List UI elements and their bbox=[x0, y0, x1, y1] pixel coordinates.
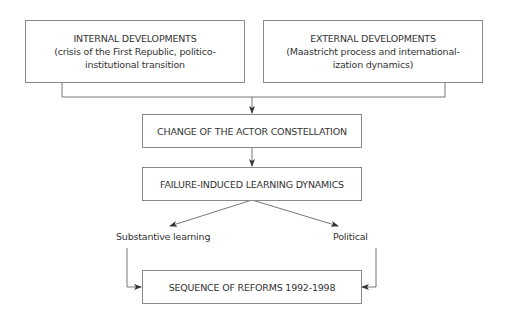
internal-title: INTERNAL DEVELOPMENTS bbox=[54, 32, 216, 45]
external-developments-box: EXTERNAL DEVELOPMENTS (Maastricht proces… bbox=[263, 20, 483, 83]
arrow-political-to-reforms bbox=[362, 248, 376, 287]
actor-title: CHANGE OF THE ACTOR CONSTELLATION bbox=[157, 125, 347, 138]
failure-learning-box: FAILURE-INDUCED LEARNING DYNAMICS bbox=[142, 167, 362, 201]
substantive-learning-label: Substantive learning bbox=[116, 231, 210, 242]
merge-connector bbox=[62, 83, 445, 97]
internal-line3: institutional transition bbox=[54, 58, 216, 71]
internal-developments-box: INTERNAL DEVELOPMENTS (crisis of the Fir… bbox=[25, 20, 245, 83]
internal-line2: (crisis of the First Republic, politico- bbox=[54, 45, 216, 58]
arrow-to-political bbox=[252, 200, 338, 226]
failure-title: FAILURE-INDUCED LEARNING DYNAMICS bbox=[160, 178, 344, 191]
arrow-substantive-to-reforms bbox=[127, 248, 141, 287]
sequence-of-reforms-box: SEQUENCE OF REFORMS 1992-1998 bbox=[142, 270, 362, 304]
arrow-to-substantive bbox=[170, 200, 252, 226]
external-line3: ization dynamics) bbox=[286, 58, 459, 71]
external-line2: (Maastricht process and international- bbox=[286, 45, 459, 58]
actor-constellation-box: CHANGE OF THE ACTOR CONSTELLATION bbox=[142, 114, 362, 148]
reforms-title: SEQUENCE OF REFORMS 1992-1998 bbox=[169, 281, 336, 294]
political-label: Political bbox=[333, 231, 368, 242]
external-title: EXTERNAL DEVELOPMENTS bbox=[286, 32, 459, 45]
